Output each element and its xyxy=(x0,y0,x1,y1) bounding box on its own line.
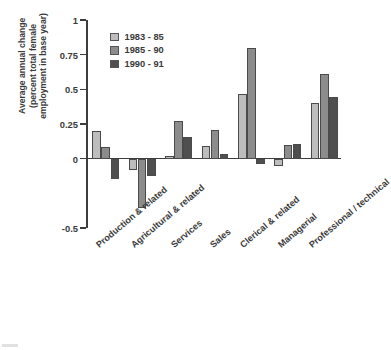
bar xyxy=(320,74,329,159)
y-tick-label: 0.75 xyxy=(60,49,78,60)
y-tick-label: 1 xyxy=(73,15,78,26)
bar xyxy=(247,48,256,159)
legend-swatch-icon xyxy=(110,46,119,55)
bar xyxy=(92,131,101,159)
legend: 1983 - 851985 - 901990 - 91 xyxy=(110,30,164,71)
x-category-label-3: Sales xyxy=(208,227,233,250)
bar xyxy=(311,103,320,158)
bar xyxy=(147,159,156,176)
bar xyxy=(202,146,211,158)
y-tick-label: 0.5 xyxy=(65,84,78,95)
page-artifact xyxy=(2,344,18,347)
bar xyxy=(111,159,120,179)
legend-item-0: 1983 - 85 xyxy=(110,30,164,44)
bar xyxy=(174,121,183,159)
bar xyxy=(101,147,110,159)
y-tick-mark xyxy=(80,89,86,90)
bar xyxy=(284,145,293,158)
y-tick-mark xyxy=(80,227,86,228)
y-tick-label: 0.25 xyxy=(60,119,78,130)
legend-label: 1983 - 85 xyxy=(125,32,164,42)
y-axis-title-line-2: (percent total female xyxy=(28,0,39,161)
bar xyxy=(183,137,192,158)
bar xyxy=(211,130,220,159)
y-tick-mark xyxy=(80,19,86,20)
y-axis-title-line-1: Average annual change xyxy=(17,0,28,161)
y-tick-mark xyxy=(80,158,86,159)
bar xyxy=(165,156,174,159)
bar xyxy=(293,144,302,159)
legend-label: 1985 - 90 xyxy=(125,45,164,55)
bar xyxy=(220,154,229,159)
bar xyxy=(274,159,283,166)
bar xyxy=(238,94,247,158)
y-tick-label: 0 xyxy=(73,153,78,164)
legend-item-2: 1990 - 91 xyxy=(110,57,164,71)
y-axis-line xyxy=(86,20,88,228)
bar xyxy=(129,159,138,170)
legend-swatch-icon xyxy=(110,60,119,69)
bar xyxy=(256,159,265,164)
bar xyxy=(329,97,338,159)
legend-swatch-icon xyxy=(110,33,119,42)
y-tick-label: -0.5 xyxy=(62,223,78,234)
y-tick-mark xyxy=(80,123,86,124)
y-axis-title-line-3: employment in base year) xyxy=(38,0,49,161)
legend-item-1: 1985 - 90 xyxy=(110,44,164,58)
legend-label: 1990 - 91 xyxy=(125,59,164,69)
y-axis-title: Average annual change (percent total fem… xyxy=(17,0,49,161)
y-tick-mark xyxy=(80,54,86,55)
